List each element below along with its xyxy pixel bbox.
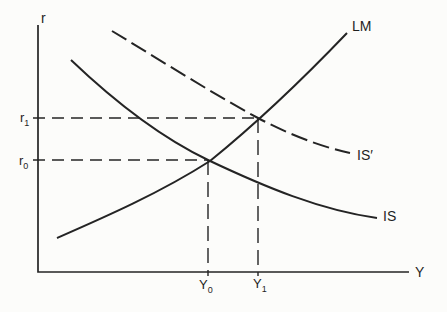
islm-figure: LMISIS′rYr1r0Y0Y1 [0, 0, 447, 312]
y-axis-label: r [41, 10, 46, 26]
axes-lines [38, 25, 409, 272]
is-label: IS [383, 208, 396, 224]
y0-tick-label: Y0 [199, 277, 213, 295]
is-prime-curve [112, 31, 350, 153]
y1-tick-label: Y1 [253, 276, 267, 294]
r1-tick-label: r1 [20, 110, 29, 128]
lm-curve [57, 33, 347, 238]
x-axis-label: Y [415, 264, 425, 280]
figure-canvas: LMISIS′rYr1r0Y0Y1 [0, 0, 447, 312]
lm-label: LM [352, 18, 371, 34]
r0-tick-label: r0 [19, 153, 28, 171]
is-curve [71, 60, 377, 218]
is-prime-label: IS′ [357, 147, 373, 163]
